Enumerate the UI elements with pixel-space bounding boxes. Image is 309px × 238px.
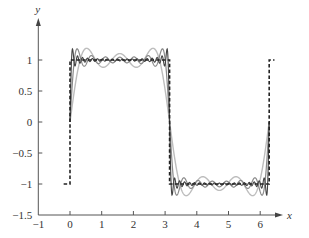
axes: y x [34, 3, 292, 221]
x-tick-label: 3 [162, 218, 168, 230]
x-tick-label: 4 [194, 218, 200, 230]
y-tick-label: 0.5 [19, 85, 33, 97]
y-tick-label: 0 [27, 116, 33, 128]
y-axis-label: y [34, 3, 40, 15]
y-tick-label: −1 [21, 178, 33, 190]
x-axis-label: x [286, 209, 292, 221]
x-tick-label: 2 [131, 218, 137, 230]
x-tick-label: 0 [67, 218, 73, 230]
y-tick-label: −0.5 [12, 147, 32, 159]
square-wave-line [64, 60, 275, 184]
y-tick-label: 1 [27, 54, 33, 66]
x-axis-arrow-icon [275, 213, 283, 218]
x-ticks: −10123456 [32, 211, 263, 230]
fourier-square-wave-chart: y x −10123456 −1.5−1−0.500.51 [0, 0, 309, 238]
x-tick-label: 1 [99, 218, 105, 230]
y-axis-arrow-icon [36, 18, 41, 26]
x-tick-label: 5 [226, 218, 232, 230]
y-tick-label: −1.5 [12, 209, 32, 221]
x-tick-label: −1 [32, 218, 44, 230]
plot-curves [64, 48, 275, 195]
x-tick-label: 6 [257, 218, 263, 230]
